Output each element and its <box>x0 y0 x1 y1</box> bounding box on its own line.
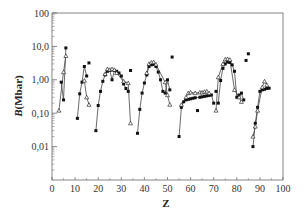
data-point-filled <box>83 65 86 68</box>
data-point-filled <box>196 109 199 112</box>
data-point-filled <box>64 46 67 49</box>
data-point-open <box>184 95 188 99</box>
series-line <box>84 81 89 105</box>
data-point-filled <box>120 74 123 77</box>
data-point-open <box>216 75 220 79</box>
data-point-filled <box>168 88 171 91</box>
y-axis-title: B(Mbar) <box>12 75 25 118</box>
data-point-open <box>85 95 89 99</box>
data-point-filled <box>85 74 88 77</box>
data-point-filled <box>60 81 63 84</box>
data-point-filled <box>233 70 236 73</box>
data-point-filled <box>221 67 224 70</box>
data-point-filled <box>240 92 243 95</box>
data-point-open <box>129 121 133 125</box>
y-tick-label: 1,00 <box>32 74 50 85</box>
x-tick-label: 30 <box>116 183 126 194</box>
data-point-filled <box>219 79 222 82</box>
data-point-open <box>64 54 68 58</box>
data-point-filled <box>212 102 215 105</box>
x-tick-label: 90 <box>255 183 265 194</box>
y-tick-label: 0,10 <box>32 108 50 119</box>
data-point-filled <box>97 104 100 107</box>
data-point-filled <box>141 92 144 95</box>
series-line <box>253 88 269 146</box>
data-point-filled <box>99 90 102 93</box>
data-point-filled <box>62 98 65 101</box>
data-point-open <box>260 85 264 89</box>
x-tick-label: 60 <box>186 183 196 194</box>
x-axis-title: Z <box>162 197 169 209</box>
data-point-open <box>253 124 257 128</box>
data-point-filled <box>76 117 79 120</box>
data-point-filled <box>138 108 141 111</box>
data-point-filled <box>247 52 250 55</box>
data-point-filled <box>166 78 169 81</box>
data-point-filled <box>124 87 127 90</box>
data-point-open <box>263 79 267 83</box>
data-point-filled <box>101 80 104 83</box>
x-tick-label: 80 <box>232 183 242 194</box>
data-point-open <box>145 71 149 75</box>
x-tick-label: 100 <box>276 183 291 194</box>
y-tick-label: 10,0 <box>32 41 50 52</box>
data-point-filled <box>231 63 234 66</box>
data-point-filled <box>87 61 90 64</box>
data-point-filled <box>245 59 248 62</box>
data-point-filled <box>242 98 245 101</box>
chart: 010203040506070809010010010,01,000,100,0… <box>0 0 302 214</box>
data-point-filled <box>217 102 220 105</box>
data-point-filled <box>157 71 160 74</box>
data-point-filled <box>129 69 132 72</box>
data-point-open <box>57 109 61 113</box>
y-tick-label: 100 <box>34 8 49 19</box>
x-tick-label: 40 <box>139 183 149 194</box>
data-point-filled <box>159 78 162 81</box>
data-point-filled <box>164 92 167 95</box>
data-point-filled <box>111 78 114 81</box>
data-point-filled <box>127 90 130 93</box>
series-line <box>138 64 170 133</box>
x-tick-label: 20 <box>93 183 103 194</box>
data-point-filled <box>215 90 218 93</box>
x-tick-label: 70 <box>209 183 219 194</box>
x-tick-label: 10 <box>70 183 80 194</box>
series-line <box>105 69 130 123</box>
data-point-open <box>82 79 86 83</box>
y-tick-label: 0,01 <box>32 141 50 152</box>
x-tick-label: 0 <box>50 183 55 194</box>
data-point-filled <box>268 87 271 90</box>
data-point-filled <box>171 56 174 59</box>
data-point-open <box>256 109 260 113</box>
series-markers <box>57 46 271 148</box>
data-point-filled <box>251 145 254 148</box>
x-tick-label: 50 <box>163 183 173 194</box>
axes: 010203040506070809010010010,01,000,100,0… <box>32 8 291 195</box>
data-point-open <box>214 109 218 113</box>
data-point-open <box>168 103 172 107</box>
data-point-filled <box>178 135 181 138</box>
data-point-filled <box>78 92 81 95</box>
data-point-filled <box>136 132 139 135</box>
data-point-open <box>87 103 91 107</box>
data-point-filled <box>143 82 146 85</box>
data-point-filled <box>94 129 97 132</box>
data-point-filled <box>194 96 197 99</box>
